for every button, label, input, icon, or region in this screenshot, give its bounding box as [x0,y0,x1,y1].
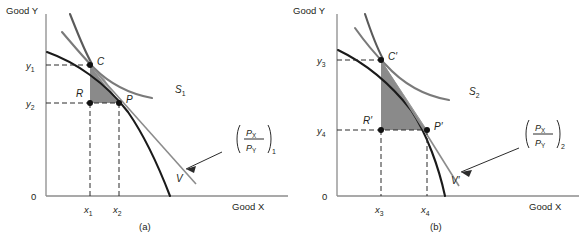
economics-figure: Good Y Good X 0 y1 y2 x1 x2 C R P V S1 P… [0,0,582,234]
ytick-y2-a: y2 [25,98,35,111]
point-label-c-a: C [97,56,105,67]
origin-label-a: 0 [31,191,36,202]
ratio-denominator-a: PY [246,143,257,154]
y-axis-label-a: Good Y [6,5,39,16]
price-ratio-label-b: PX PY 2 [526,120,565,150]
point-c-marker-a [87,62,93,68]
xtick-x2-a: x2 [112,204,122,217]
price-ratio-label-a: PX PY 1 [237,125,276,155]
point-label-r-prime-b: R′ [363,115,373,126]
xtick-x4-b: x4 [420,204,430,217]
ytick-y1-a: y1 [25,60,35,73]
curve-label-s2: S2 [469,86,480,99]
ratio-paren-right-a [268,125,271,153]
ratio-arrow-line-b [461,148,519,172]
y-axis-label-b: Good Y [293,5,326,16]
caption-b: (b) [430,221,442,232]
ytick-y4-b: y4 [316,125,326,138]
price-line-a [88,63,196,184]
xtick-x3-b: x3 [374,204,384,217]
point-label-c-prime-b: C′ [388,51,398,62]
panel-a-plot: Good Y Good X 0 y1 y2 x1 x2 C R P V S1 P… [0,0,291,234]
ratio-paren-right-b [557,120,560,148]
point-label-p-a: P [126,94,133,105]
panel-b-plot: Good Y Good X 0 y3 y4 x3 x4 C′ R′ P′ V′ … [291,0,582,234]
point-r-marker-a [87,100,93,106]
ratio-paren-left-b [526,120,529,148]
point-p-prime-marker-b [424,127,430,133]
offer-curve-upper-a [70,14,92,64]
ratio-numerator-b: PX [535,123,546,134]
panel-a: Good Y Good X 0 y1 y2 x1 x2 C R P V S1 P… [0,0,291,234]
point-p-marker-a [116,100,122,106]
ytick-y3-b: y3 [316,55,326,68]
point-label-v-a: V [176,173,184,184]
ratio-index-a: 1 [272,148,276,155]
x-axis-label-b: Good X [529,201,562,212]
ratio-denominator-b: PY [535,138,546,149]
x-axis-label-a: Good X [232,201,265,212]
ratio-index-b: 2 [561,143,565,150]
point-label-p-prime-b: P′ [434,121,444,132]
point-c-prime-marker-b [378,57,384,63]
caption-a: (a) [139,221,151,232]
xtick-x1-a: x1 [83,204,93,217]
ppf-curve-a [47,52,170,196]
point-label-v-prime-b: V′ [451,175,461,186]
point-r-prime-marker-b [378,127,384,133]
origin-label-b: 0 [322,191,327,202]
curve-label-s1: S1 [175,84,186,97]
ratio-numerator-a: PX [246,128,257,139]
indifference-curve-s2 [355,28,449,100]
ratio-arrow-line-a [186,152,222,169]
panel-b: Good Y Good X 0 y3 y4 x3 x4 C′ R′ P′ V′ … [291,0,582,234]
ratio-paren-left-a [237,125,240,153]
point-label-r-a: R [76,88,83,99]
